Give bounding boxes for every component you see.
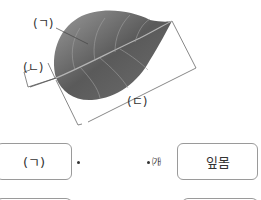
match-left-box-a[interactable]: (ㄱ) (0, 143, 72, 180)
leaf-figure: (ㄱ) (ㄴ) (ㄷ) (0, 0, 261, 140)
match-right-tag: ㈎ (152, 155, 161, 168)
label-c: (ㄷ) (127, 92, 147, 109)
label-a: (ㄱ) (33, 14, 53, 31)
match-left-dot-a[interactable] (77, 161, 80, 164)
match-right-label: 잎몸 (206, 152, 230, 171)
match-left-box-next[interactable] (0, 198, 72, 200)
match-right-box-a[interactable]: 잎몸 (177, 143, 258, 180)
match-left-label: (ㄱ) (23, 152, 45, 171)
label-b: (ㄴ) (23, 58, 43, 75)
match-right-dot-a[interactable] (147, 161, 150, 164)
leaf-blade (54, 11, 172, 100)
match-right-box-next[interactable] (182, 198, 258, 200)
